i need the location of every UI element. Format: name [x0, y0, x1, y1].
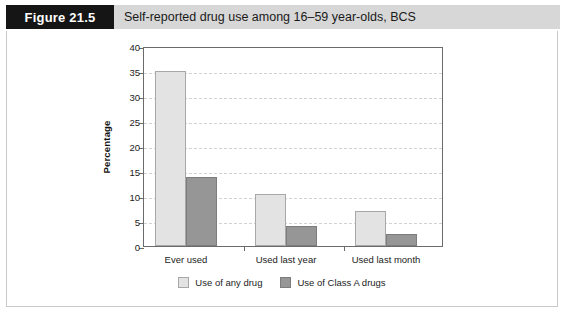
- chart-gridline: [144, 123, 442, 124]
- y-axis-tick-label: 10: [129, 193, 140, 203]
- x-axis-tick: [344, 246, 345, 251]
- legend-item-any-drug: Use of any drug: [178, 277, 262, 288]
- chart-gridline: [144, 173, 442, 174]
- chart-bar: [255, 194, 286, 247]
- chart-bar: [155, 71, 186, 246]
- legend-swatch-icon-class-a-drugs: [280, 277, 291, 288]
- legend-item-class-a-drugs: Use of Class A drugs: [280, 277, 385, 288]
- y-axis-tick-label: 30: [129, 93, 140, 103]
- x-axis-tick: [244, 246, 245, 251]
- figure-number-tag: Figure 21.5: [6, 5, 114, 29]
- figure-card: Percentage 0510152025303540Ever usedUsed…: [6, 31, 558, 307]
- legend-swatch-icon-any-drug: [178, 277, 189, 288]
- chart-legend: Use of any drug Use of Class A drugs: [7, 277, 557, 288]
- chart-bar: [186, 177, 217, 247]
- chart-gridline: [144, 73, 442, 74]
- y-axis-tick-label: 40: [129, 43, 140, 53]
- x-axis-category-label: Ever used: [165, 254, 208, 265]
- chart-bar: [386, 234, 417, 247]
- y-axis-tick-label: 0: [135, 243, 140, 253]
- y-axis-tick-label: 15: [129, 168, 140, 178]
- chart-bar: [286, 226, 317, 246]
- chart-gridline: [144, 98, 442, 99]
- figure-caption: Self-reported drug use among 16–59 year-…: [124, 5, 416, 29]
- chart-gridline: [144, 148, 442, 149]
- y-axis-tick-label: 5: [135, 218, 140, 228]
- y-axis-tick-label: 20: [129, 143, 140, 153]
- y-axis-tick-label: 35: [129, 68, 140, 78]
- y-axis-tick-label: 25: [129, 118, 140, 128]
- chart-bar: [355, 211, 386, 246]
- x-axis-category-label: Used last year: [256, 254, 317, 265]
- legend-label-class-a-drugs: Use of Class A drugs: [297, 277, 385, 288]
- y-axis-title: Percentage: [101, 120, 112, 173]
- chart-plot-area: Percentage 0510152025303540Ever usedUsed…: [143, 47, 443, 247]
- x-axis-category-label: Used last month: [352, 254, 421, 265]
- legend-label-any-drug: Use of any drug: [195, 277, 262, 288]
